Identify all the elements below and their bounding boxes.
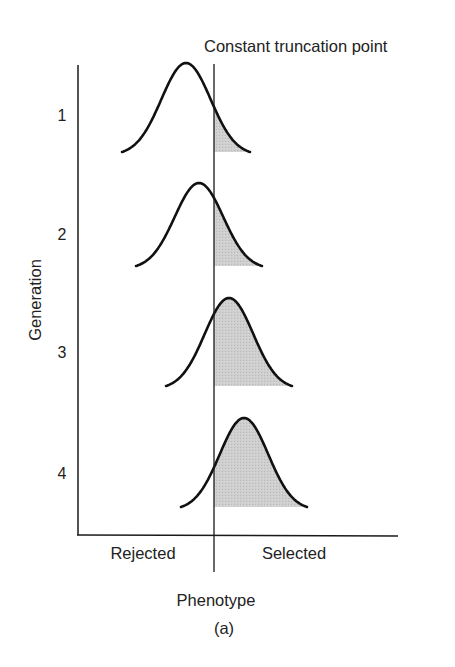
selected-area-gen-4	[214, 418, 307, 507]
distribution-curve-gen-1	[122, 63, 250, 152]
figure-caption: (a)	[214, 619, 234, 637]
x-axis-label: Phenotype	[177, 591, 256, 609]
rejected-label: Rejected	[110, 544, 175, 562]
generation-label-2: 2	[58, 226, 67, 243]
x-axis	[77, 535, 398, 536]
generation-label-4: 4	[58, 465, 67, 482]
selected-area-gen-2	[214, 198, 262, 266]
selected-area-gen-1	[214, 107, 250, 152]
selected-area-gen-3	[214, 298, 292, 386]
distribution-curve-gen-2	[136, 183, 262, 266]
generation-label-1: 1	[58, 107, 67, 124]
selected-label: Selected	[262, 544, 326, 562]
truncation-selection-diagram: Constant truncation point Generation 1 2…	[0, 0, 455, 667]
y-axis-label: Generation	[26, 259, 44, 341]
selected-regions	[214, 107, 307, 507]
truncation-point-label: Constant truncation point	[204, 37, 388, 55]
generation-label-3: 3	[58, 344, 67, 361]
